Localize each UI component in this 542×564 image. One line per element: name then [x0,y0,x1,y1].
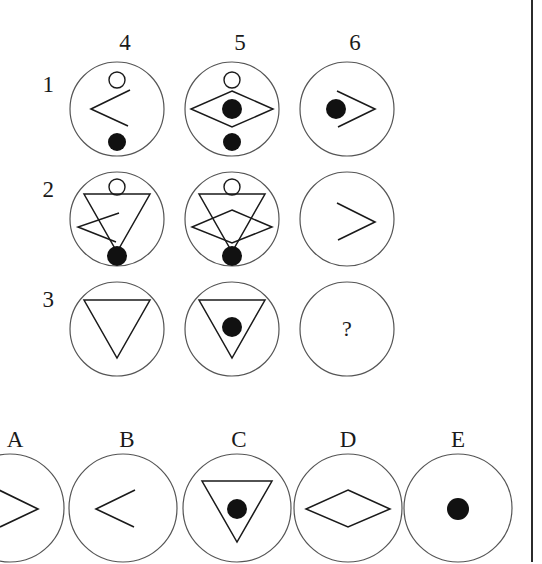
small-hollow-circle-top-icon [224,72,240,88]
column-header-6: 6 [340,31,370,54]
option-figure-a [0,452,65,564]
right-chevron-icon [0,490,38,527]
option-label-c: C [224,428,254,451]
matrix-cell-r1c6[interactable] [298,60,396,158]
cell-figure-r3c5 [183,280,281,378]
matrix-grid: 4 5 6 1 2 3 [0,0,531,415]
matrix-cell-r1c4[interactable] [68,60,166,158]
matrix-cell-r3c6[interactable]: ? [298,280,396,378]
diamond-icon [306,490,390,527]
row-label-1: 1 [32,73,54,96]
filled-dot-bottom-icon [107,246,127,266]
option-a[interactable] [0,452,65,564]
small-hollow-circle-top-icon [109,179,125,195]
cell-figure-r3c4 [68,280,166,378]
diamond-icon [192,210,272,243]
left-chevron-icon [78,213,119,242]
matrix-cell-r3c4[interactable] [68,280,166,378]
matrix-cell-r2c4[interactable] [68,170,166,268]
filled-dot-bottom-icon [108,133,126,151]
matrix-cell-r2c5[interactable] [183,170,281,268]
filled-dot-center-icon [222,99,242,119]
option-label-e: E [443,428,473,451]
small-hollow-circle-top-icon [224,179,240,195]
left-chevron-icon [91,90,130,126]
option-figure-c [182,452,292,564]
cell-figure-r2c5 [183,170,281,268]
matrix-cell-r1c5[interactable] [183,60,281,158]
page-right-border [531,0,533,562]
option-label-d: D [333,428,363,451]
option-figure-e [403,452,513,564]
option-label-a: A [0,428,30,451]
filled-dot-bottom-icon [223,133,241,151]
matrix-cell-r3c5[interactable] [183,280,281,378]
filled-dot-bottom-icon [222,246,242,266]
option-d[interactable] [293,452,403,564]
column-header-5: 5 [225,31,255,54]
down-triangle-icon [84,300,150,358]
option-figure-b [68,452,178,564]
row-label-3: 3 [32,288,54,311]
matrix-cell-r2c6[interactable] [298,170,396,268]
down-triangle-icon [84,194,150,252]
column-header-4: 4 [110,31,140,54]
cell-figure-r2c4 [68,170,166,268]
option-e[interactable] [403,452,513,564]
option-b[interactable] [68,452,178,564]
option-figure-d [293,452,403,564]
filled-dot-center-icon [222,317,242,337]
cell-figure-r1c6 [298,60,396,158]
option-label-b: B [112,428,142,451]
filled-dot-center-icon [326,99,346,119]
left-chevron-icon [96,490,135,527]
cell-figure-r1c5 [183,60,281,158]
filled-dot-center-icon [227,499,247,519]
cell-figure-r2c6 [298,170,396,268]
small-hollow-circle-top-icon [109,72,125,88]
option-c[interactable] [182,452,292,564]
right-chevron-icon [337,203,375,240]
row-label-2: 2 [32,178,54,201]
filled-dot-center-icon [447,498,469,520]
missing-cell-question-mark: ? [298,280,396,378]
cell-figure-r1c4 [68,60,166,158]
